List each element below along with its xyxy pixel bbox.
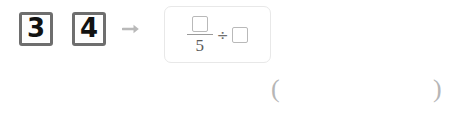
digit-tile-3-value: 3 [27,15,45,41]
answer-open-paren: ( [271,76,280,102]
digit-tile-4[interactable]: 4 [72,12,106,46]
fraction-denominator: 5 [193,36,206,55]
digit-tile-4-value: 4 [80,15,98,41]
division-operator-icon: ÷ [216,28,230,42]
fraction-numerator-input[interactable] [190,14,210,33]
problem-row: 3 4 5 ÷ [0,0,460,68]
empty-answer-box-numerator[interactable] [192,16,208,32]
arrow-right-icon [122,23,142,35]
math-expression: 5 ÷ [165,7,270,62]
answer-blank-input[interactable] [284,80,430,102]
fraction: 5 [187,14,213,55]
fraction-denominator-value: 5 [195,37,204,54]
expression-card: 5 ÷ [164,6,271,63]
answer-close-paren: ) [433,76,442,102]
digit-tile-3[interactable]: 3 [19,12,53,46]
answer-row: ( ) [0,70,460,114]
fraction-bar [187,34,213,35]
empty-answer-box-divisor[interactable] [232,27,248,43]
